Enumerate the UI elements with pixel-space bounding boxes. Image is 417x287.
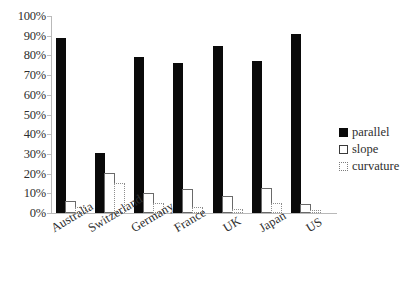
y-axis-tick-label: 80% xyxy=(0,49,46,61)
bar-group xyxy=(286,16,325,213)
y-axis-tick-label: 0% xyxy=(0,207,46,219)
y-axis-tick-label: 20% xyxy=(0,168,46,180)
y-axis-tick-label: 10% xyxy=(0,187,46,199)
chart-legend: parallelslopecurvature xyxy=(339,124,417,175)
bar-parallel xyxy=(213,46,223,213)
bar-group xyxy=(129,16,168,213)
x-axis-category-labels: AustraliaSwitzerlandGermanyFranceUKJapan… xyxy=(51,214,337,287)
bar-group xyxy=(51,16,90,213)
plot-area xyxy=(51,16,325,213)
bar-group xyxy=(90,16,129,213)
bar-chart: 100%90%80%70%60%50%40%30%20%10%0% Austra… xyxy=(0,0,417,287)
legend-swatch-curvature-icon xyxy=(339,162,348,171)
legend-label: parallel xyxy=(352,126,389,139)
bar-group xyxy=(247,16,286,213)
legend-item-slope: slope xyxy=(339,141,417,158)
bar-curvature xyxy=(232,209,243,213)
legend-label: curvature xyxy=(352,160,399,173)
y-axis-tick-label: 30% xyxy=(0,148,46,160)
legend-item-curvature: curvature xyxy=(339,158,417,175)
legend-swatch-slope-icon xyxy=(339,145,348,154)
y-axis-tick-label: 100% xyxy=(0,10,46,22)
legend-label: slope xyxy=(352,143,378,156)
y-axis-tick-label: 60% xyxy=(0,89,46,101)
legend-swatch-parallel-icon xyxy=(339,128,348,137)
y-axis-tick-label: 50% xyxy=(0,109,46,121)
bar-parallel xyxy=(134,57,144,213)
x-axis-label-us: US xyxy=(304,216,325,235)
y-axis-tick-label: 40% xyxy=(0,128,46,140)
y-axis-tick-label: 70% xyxy=(0,69,46,81)
y-axis-tick-label: 90% xyxy=(0,30,46,42)
x-axis-label-uk: UK xyxy=(221,215,243,236)
bar-group xyxy=(208,16,247,213)
legend-item-parallel: parallel xyxy=(339,124,417,141)
bar-parallel xyxy=(56,38,66,213)
bar-group xyxy=(168,16,207,213)
bar-parallel xyxy=(291,34,301,213)
bar-curvature xyxy=(310,210,321,213)
